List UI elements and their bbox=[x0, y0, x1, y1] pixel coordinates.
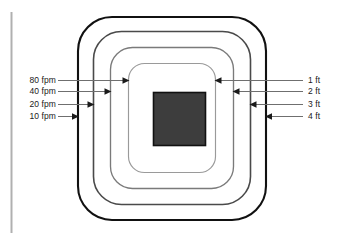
velocity-label-40fpm: 40 fpm bbox=[18, 87, 56, 96]
velocity-label-10fpm: 10 fpm bbox=[18, 112, 56, 121]
distance-label-1ft: 1 ft bbox=[308, 76, 338, 85]
velocity-label-20fpm: 20 fpm bbox=[18, 100, 56, 109]
distance-label-2ft: 2 ft bbox=[308, 87, 338, 96]
distance-label-3ft: 3 ft bbox=[308, 100, 338, 109]
source-block bbox=[154, 93, 206, 146]
distance-label-4ft: 4 ft bbox=[308, 112, 338, 121]
velocity-label-80fpm: 80 fpm bbox=[18, 76, 56, 85]
